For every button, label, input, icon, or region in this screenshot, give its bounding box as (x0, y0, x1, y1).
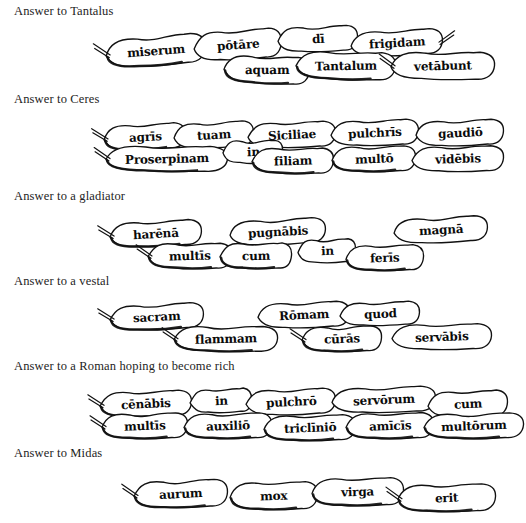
word-banner[interactable]: mox (228, 480, 320, 512)
word-banner[interactable]: vetābunt (389, 49, 498, 83)
ribbon-icon (293, 48, 398, 84)
group-heading: Answer to a vestal (14, 274, 109, 288)
ribbon-icon (100, 411, 190, 441)
ribbon-icon (392, 213, 491, 246)
ribbon-icon (172, 323, 281, 355)
ribbon-icon (218, 240, 295, 271)
word-banner[interactable]: multīs (100, 411, 190, 441)
word-banner[interactable]: erit (396, 482, 498, 514)
word-banner[interactable]: aurum (132, 477, 231, 511)
word-banner[interactable]: flammam (172, 323, 281, 355)
word-banner[interactable]: virga (310, 476, 406, 508)
word-banner[interactable]: vidēbis (410, 144, 506, 174)
group-heading: Answer to Midas (14, 446, 102, 460)
ribbon-icon (330, 144, 418, 174)
ribbon-icon (390, 322, 494, 352)
word-banner[interactable]: cum (218, 240, 295, 271)
ribbon-icon (228, 480, 320, 512)
ribbon-icon (422, 411, 526, 441)
word-banner[interactable]: Tantalum (293, 48, 398, 84)
ribbon-icon (250, 145, 337, 176)
word-banner[interactable]: ferīs (344, 243, 426, 273)
group-heading: Answer to a gladiator (14, 189, 125, 203)
word-banner[interactable]: auxiliō (182, 411, 274, 441)
word-banner[interactable]: cūrās (300, 324, 384, 354)
ribbon-icon (410, 144, 506, 174)
word-banner[interactable]: Proserpinam (104, 143, 231, 175)
word-banner[interactable]: servābis (390, 322, 494, 352)
ribbon-icon (344, 243, 426, 273)
word-banner[interactable]: filiam (250, 145, 337, 176)
ribbon-icon (104, 143, 231, 175)
group-heading: Answer to a Roman hoping to become rich (14, 359, 235, 373)
ribbon-icon (300, 324, 384, 354)
group-heading: Answer to Ceres (14, 92, 100, 106)
ribbon-icon (389, 49, 498, 83)
ribbon-icon (310, 476, 406, 508)
ribbon-icon (132, 477, 231, 511)
word-banner[interactable]: multō (330, 144, 418, 174)
ribbon-icon (396, 482, 498, 514)
word-banner[interactable]: magnā (392, 213, 491, 246)
group-heading: Answer to Tantalus (14, 4, 114, 18)
ribbon-icon (182, 411, 274, 441)
word-banner[interactable]: multōrum (422, 411, 526, 441)
